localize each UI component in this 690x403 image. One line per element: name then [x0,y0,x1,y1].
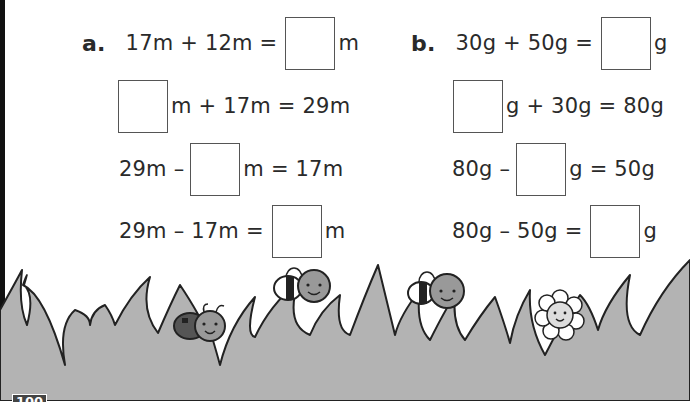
equation-text: m = 17m [243,157,343,181]
equation-a-1: a. 17m + 12m = m [82,15,359,71]
equation-text: 80g – [452,157,510,181]
equation-text: m [338,31,359,55]
equation-b-4: 80g – 50g = g [452,203,657,259]
grass-icon [0,260,690,401]
grass-illustration [0,255,690,401]
answer-box[interactable] [601,17,651,70]
bee-icon [274,268,330,302]
equation-text: 30g + 50g = [456,31,594,55]
equation-text: 29m – 17m = [119,219,264,243]
answer-box[interactable] [272,205,322,258]
equation-text: g + 30g = 80g [506,94,664,118]
answer-box[interactable] [453,80,503,133]
equation-text: 17m + 12m = [126,31,278,55]
equation-b-3: 80g – g = 50g [452,141,655,197]
equation-text: g [654,31,668,55]
equation-text: m [325,219,346,243]
answer-box[interactable] [516,143,566,196]
answer-box[interactable] [190,143,240,196]
answer-box[interactable] [118,80,168,133]
page-number: 100 [12,394,47,403]
section-b-label: b. [411,31,436,56]
answer-box[interactable] [590,205,640,258]
equation-text: m + 17m = 29m [171,94,350,118]
equation-text: g = 50g [569,157,655,181]
equation-b-2: g + 30g = 80g [453,78,664,134]
equation-b-1: b. 30g + 50g = g [411,15,668,71]
equation-text: g [643,219,657,243]
equation-text: 80g – 50g = [452,219,582,243]
equation-a-3: 29m – m = 17m [119,141,343,197]
equation-a-4: 29m – 17m = m [119,203,345,259]
equation-a-2: m + 17m = 29m [118,78,350,134]
section-a-label: a. [82,31,106,56]
answer-box[interactable] [285,17,335,70]
bee-icon [408,272,464,308]
equation-text: 29m – [119,157,184,181]
